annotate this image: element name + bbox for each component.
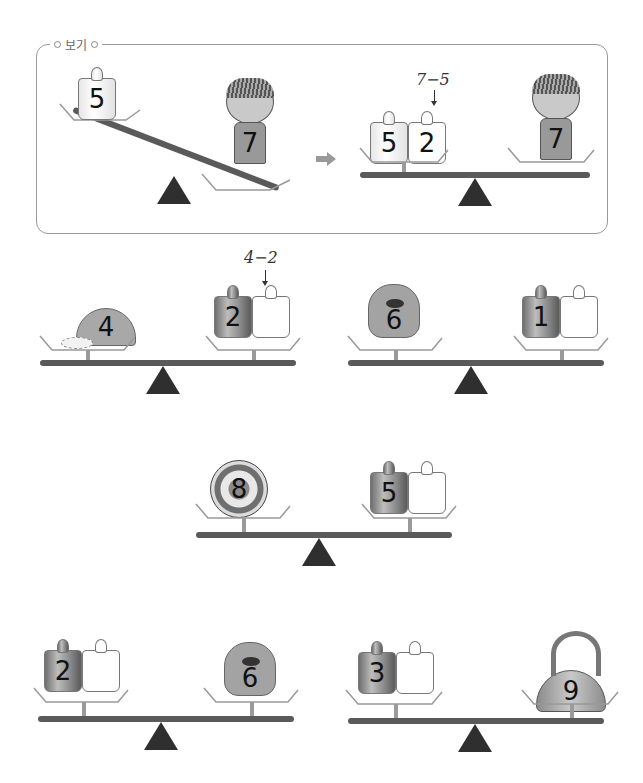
weight-1: 1 [522, 296, 560, 338]
scale-fulcrum [144, 722, 178, 750]
scale-fulcrum [454, 366, 488, 394]
scale-pan-left [32, 686, 130, 708]
monster-object: 6 [368, 284, 420, 338]
annotation-arrow-icon [265, 270, 266, 282]
scale-fulcrum [146, 366, 180, 394]
scale-fulcrum [302, 538, 336, 566]
annotation-text: 4−2 [244, 248, 278, 267]
example-label-text: 보기 [65, 36, 87, 53]
scale-pan-right [200, 172, 292, 194]
girl-figure: 7 [528, 76, 584, 166]
problem-3-scale: 8 5 [194, 440, 464, 580]
scale-fulcrum [458, 724, 492, 752]
label-dot-icon [54, 41, 61, 48]
example-after-scale: 7−5 5 2 7 [360, 60, 600, 220]
problem-2-scale: 6 1 [346, 248, 616, 398]
blank-weight [252, 296, 290, 338]
annotation-arrow-icon [434, 90, 435, 102]
problem-4-scale: 2 6 [38, 630, 298, 780]
example-before-scale: 5 7 [60, 80, 290, 220]
weight-5: 5 [78, 78, 116, 120]
label-dot-icon [91, 41, 98, 48]
annotation-text: 7−5 [416, 70, 450, 89]
right-arrow-icon [316, 152, 336, 166]
weight-2: 2 [214, 296, 252, 338]
girl-figure: 7 [222, 80, 278, 170]
problem-1-scale: 4−2 4 2 [38, 248, 298, 398]
scale-fulcrum [157, 176, 191, 204]
problem-5-scale: 3 9 [346, 630, 616, 780]
blank-weight [560, 296, 598, 338]
scale-fulcrum [458, 178, 492, 206]
example-label: 보기 [50, 36, 102, 53]
